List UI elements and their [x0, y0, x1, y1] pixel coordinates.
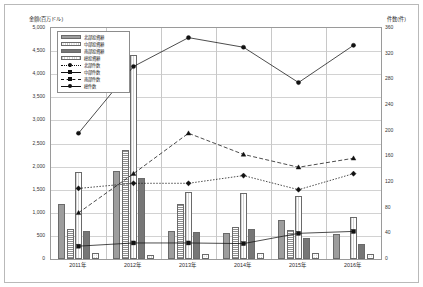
line-北部件数: [79, 174, 354, 190]
legend-swatch: [61, 42, 81, 47]
marker-中部件数: [352, 229, 356, 233]
marker-中部件数: [132, 241, 136, 245]
right-tick-label: 320: [385, 50, 409, 56]
legend-swatch: [61, 56, 81, 61]
x-tick-label: 2015年: [270, 261, 326, 269]
legend-label: 総件数: [84, 83, 96, 89]
x-tick-label: 2011年: [50, 261, 106, 269]
left-tick-label: 3,500: [19, 93, 45, 99]
right-tick-label: 80: [385, 204, 409, 210]
legend-item-北部投資額: 北部投資額: [61, 34, 127, 40]
legend-line-sample: [61, 70, 81, 75]
legend-item-中部件数: 中部件数: [61, 69, 127, 75]
marker-中部件数: [77, 244, 81, 248]
legend-label: 南部投資額: [84, 48, 104, 54]
legend-item-総投資額: 総投資額: [61, 55, 127, 61]
gridline: [51, 259, 381, 260]
legend-label: 中部件数: [84, 69, 100, 75]
legend-line-sample: [61, 84, 81, 89]
left-tick-label: 500: [19, 232, 45, 238]
right-tick-label: 280: [385, 75, 409, 81]
left-tick-label: 3,000: [19, 116, 45, 122]
marker-北部件数: [351, 171, 356, 176]
right-tick-label: 360: [385, 24, 409, 30]
legend-swatch: [61, 49, 81, 54]
x-tick-label: 2014年: [215, 261, 271, 269]
marker-北部件数: [241, 173, 246, 178]
marker-総件数: [241, 45, 245, 49]
left-tick-label: 4,000: [19, 70, 45, 76]
marker-北部件数: [76, 186, 81, 191]
marker-総件数: [186, 36, 190, 40]
left-tick-label: 1,500: [19, 186, 45, 192]
legend-label: 北部件数: [84, 62, 100, 68]
left-tick-label: 4,500: [19, 47, 45, 53]
legend-item-中部投資額: 中部投資額: [61, 41, 127, 47]
marker-南部件数: [351, 156, 356, 160]
legend-label: 南部件数: [84, 76, 100, 82]
legend-line-sample: [61, 63, 81, 68]
legend-line-sample: [61, 77, 81, 82]
left-axis-title: 金額(百万ドル): [29, 15, 63, 22]
marker-北部件数: [296, 187, 301, 192]
right-tick-label: 160: [385, 152, 409, 158]
legend-item-南部投資額: 南部投資額: [61, 48, 127, 54]
marker-総件数: [131, 64, 135, 68]
marker-北部件数: [131, 181, 136, 186]
right-axis-title: 件数(件): [387, 15, 406, 22]
marker-総件数: [296, 80, 300, 84]
left-tick-label: 2,500: [19, 140, 45, 146]
legend-item-総件数: 総件数: [61, 83, 127, 89]
legend-item-南部件数: 南部件数: [61, 76, 127, 82]
left-tick-label: 1,000: [19, 209, 45, 215]
right-tick-label: 0: [385, 255, 409, 261]
marker-中部件数: [187, 241, 191, 245]
legend-label: 総投資額: [84, 55, 100, 61]
x-tick-label: 2016年: [325, 261, 381, 269]
right-tick-label: 120: [385, 178, 409, 184]
legend-label: 北部投資額: [84, 34, 104, 40]
x-tick-label: 2013年: [160, 261, 216, 269]
left-tick-label: 2,000: [19, 163, 45, 169]
line-南部件数: [79, 133, 354, 213]
marker-南部件数: [186, 131, 191, 135]
x-tick-label: 2012年: [105, 261, 161, 269]
marker-南部件数: [76, 210, 81, 214]
marker-中部件数: [242, 242, 246, 246]
legend-label: 中部投資額: [84, 41, 104, 47]
right-tick-label: 200: [385, 127, 409, 133]
left-tick-label: 5,000: [19, 24, 45, 30]
legend-item-北部件数: 北部件数: [61, 62, 127, 68]
chart-frame: 金額(百万ドル) 件数(件) 5,0004,5004,0003,5003,000…: [4, 4, 419, 283]
marker-総件数: [76, 131, 80, 135]
marker-総件数: [351, 43, 355, 47]
marker-北部件数: [186, 181, 191, 186]
right-tick-label: 240: [385, 101, 409, 107]
left-tick-label: 0: [19, 255, 45, 261]
line-中部件数: [79, 231, 354, 246]
chart-legend: 北部投資額中部投資額南部投資額総投資額北部件数中部件数南部件数総件数: [57, 31, 130, 93]
marker-中部件数: [297, 231, 301, 235]
right-tick-label: 40: [385, 229, 409, 235]
legend-swatch: [61, 35, 81, 40]
marker-南部件数: [131, 171, 136, 175]
